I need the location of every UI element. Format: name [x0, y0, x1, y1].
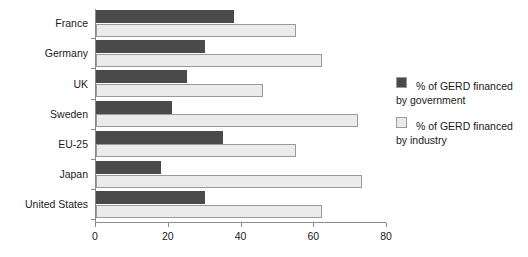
x-axis-tick: [241, 223, 242, 227]
legend-swatch-gov: [396, 77, 407, 88]
legend-item: % of GERD financedby government: [396, 76, 526, 107]
x-axis-tick-label: 20: [162, 230, 174, 242]
x-axis-tick: [386, 223, 387, 227]
bar-government: [96, 191, 205, 204]
bar-chart: FranceGermanyUKSwedenEU-25JapanUnited St…: [0, 0, 528, 257]
bar-government: [96, 161, 161, 174]
x-axis-tick-label: 60: [307, 230, 319, 242]
legend-label: % of GERD financedby government: [396, 80, 526, 107]
x-axis-tick: [313, 223, 314, 227]
y-axis-tick: [91, 68, 95, 69]
category-axis-labels: FranceGermanyUKSwedenEU-25JapanUnited St…: [0, 9, 88, 221]
y-axis-tick: [91, 219, 95, 220]
bar-industry: [96, 24, 296, 37]
legend-item: % of GERD financedby industry: [396, 116, 526, 147]
y-axis-tick: [91, 129, 95, 130]
bar-industry: [96, 84, 263, 97]
y-axis-tick: [91, 38, 95, 39]
y-axis-tick: [91, 189, 95, 190]
category-label: Sweden: [0, 109, 88, 120]
bar-government: [96, 101, 172, 114]
bar-industry: [96, 205, 322, 218]
bar-industry: [96, 175, 362, 188]
legend-swatch-ind: [396, 117, 407, 128]
x-axis-tick-label: 40: [235, 230, 247, 242]
bar-government: [96, 131, 223, 144]
bar-industry: [96, 114, 358, 127]
x-axis-tick-label: 0: [92, 230, 98, 242]
bar-industry: [96, 54, 322, 67]
bar-government: [96, 70, 187, 83]
x-axis-tick: [168, 223, 169, 227]
plot-area: 020406080: [95, 9, 386, 221]
y-axis-tick: [91, 99, 95, 100]
bar-industry: [96, 144, 296, 157]
category-label: United States: [0, 199, 88, 210]
x-axis-tick: [95, 223, 96, 227]
chart-legend: % of GERD financedby government% of GERD…: [396, 76, 526, 156]
bar-government: [96, 10, 234, 23]
category-label: France: [0, 18, 88, 29]
category-label: Japan: [0, 169, 88, 180]
category-label: UK: [0, 79, 88, 90]
legend-label: % of GERD financedby industry: [396, 120, 526, 147]
category-label: EU-25: [0, 139, 88, 150]
bar-government: [96, 40, 205, 53]
y-axis-tick: [91, 159, 95, 160]
category-label: Germany: [0, 48, 88, 59]
x-axis-tick-label: 80: [380, 230, 392, 242]
